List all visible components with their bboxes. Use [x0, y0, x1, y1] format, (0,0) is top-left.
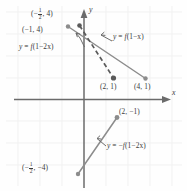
point-label-neghalf-4: (−12, 4)	[31, 8, 53, 20]
curve-label-f2-y: y	[19, 42, 22, 51]
point-label-2-1: (2, 1)	[100, 83, 117, 90]
point-label-neghalf-neg4: (−12, −4)	[22, 162, 48, 174]
curve-label-neg-f-1-minus-2x: y = −f(1−2x)	[107, 142, 146, 149]
point-label-2-neg1: (2, −1)	[119, 108, 140, 115]
leader-neg-f-arrow	[97, 136, 101, 140]
point-label-4-1: (4, 1)	[134, 83, 151, 90]
y-axis-label: y	[89, 6, 92, 14]
curve-label-f-1-minus-x: y = f(1−x)	[113, 33, 144, 40]
curve-label-f1-arg: (1−x)	[127, 32, 144, 41]
curve-label-nf-arg: (1−2x)	[125, 141, 146, 150]
x-axis-arrowhead	[162, 96, 171, 103]
point-label-neghalf-4-open: (−	[31, 9, 38, 18]
fraction-one-half: 12	[38, 8, 42, 20]
curve-label-nf-eq: =	[112, 141, 116, 150]
point-marker-neghalf-neg4	[76, 172, 80, 176]
curve-label-f1-y: y	[113, 32, 116, 41]
curve-f-1-minus-2x	[77, 23, 116, 80]
graph-figure: y x (−12, 4) (−1, 4) y = f(1−2x) y = f(1…	[0, 0, 187, 191]
curve-label-f2-arg: (1−2x)	[33, 42, 54, 51]
curve-label-f1-eq: =	[118, 32, 122, 41]
point-label-neghalf-4-close: , 4)	[43, 9, 53, 18]
curve-label-f-1-minus-2x: y = f(1−2x)	[19, 43, 54, 50]
x-axis-label: x	[172, 89, 175, 97]
y-axis-arrowhead	[81, 9, 88, 18]
point-marker-4-1	[143, 76, 147, 80]
point-marker-2-1	[111, 75, 116, 80]
point-label-neghalf-neg4-open: (−	[22, 163, 29, 172]
curve-label-nf-y: y	[107, 141, 110, 150]
fraction-denominator-lower: 2	[29, 169, 33, 175]
fraction-one-half-lower: 12	[29, 162, 33, 174]
curve-label-f2-eq: =	[24, 42, 28, 51]
fraction-denominator: 2	[38, 15, 42, 21]
point-label-neg1-4: (−1, 4)	[22, 26, 43, 33]
point-marker-neghalf-4	[77, 23, 82, 28]
point-marker-neg1-4	[66, 24, 70, 28]
point-label-neghalf-neg4-close: , −4)	[34, 163, 49, 172]
